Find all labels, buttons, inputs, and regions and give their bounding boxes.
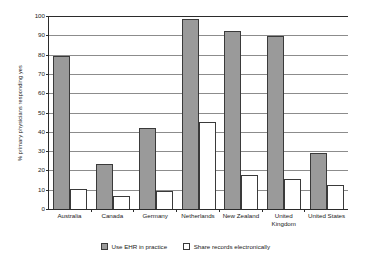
x-axis-label: Netherlands: [177, 212, 220, 236]
x-axis-label: United States: [305, 212, 348, 236]
y-axis-title: % primary physicians responding yes: [14, 18, 26, 208]
bar-share: [284, 179, 301, 209]
legend-swatch-ehr: [101, 243, 108, 250]
x-axis-labels: AustraliaCanadaGermanyNetherlandsNew Zea…: [48, 212, 348, 236]
y-tick-label-50: 50: [38, 109, 45, 115]
bar-group: [177, 16, 220, 209]
legend-swatch-share: [183, 243, 190, 250]
legend-label: Use EHR in practice: [111, 243, 167, 250]
bar-share: [327, 185, 344, 209]
bar-share: [70, 189, 87, 209]
y-tick-label-80: 80: [38, 51, 45, 57]
y-tick-mark-0: [46, 209, 49, 210]
x-axis-label: New Zealand: [219, 212, 262, 236]
y-tick-label-40: 40: [38, 129, 45, 135]
bar-ehr: [224, 31, 241, 209]
x-axis-label: Canada: [91, 212, 134, 236]
bar-group: [220, 16, 263, 209]
bar-group: [49, 16, 92, 209]
bar-group: [134, 16, 177, 209]
y-tick-label-0: 0: [42, 206, 45, 212]
bar-group: [305, 16, 348, 209]
bar-ehr: [267, 36, 284, 209]
y-tick-label-60: 60: [38, 90, 45, 96]
bar-ehr: [182, 19, 199, 209]
legend-label: Share records electronically: [194, 243, 270, 250]
bar-ehr: [310, 153, 327, 209]
bar-share: [113, 196, 130, 209]
legend-item: Use EHR in practice: [101, 243, 167, 250]
bar-share: [241, 175, 258, 209]
y-tick-label-10: 10: [38, 187, 45, 193]
bar-ehr: [53, 56, 70, 209]
y-tick-label-90: 90: [38, 32, 45, 38]
legend-item: Share records electronically: [183, 243, 270, 250]
y-tick-label-30: 30: [38, 148, 45, 154]
bar-group: [263, 16, 306, 209]
x-axis-label: Australia: [48, 212, 91, 236]
bar-share: [199, 122, 216, 209]
x-axis-label: United Kingdom: [262, 212, 305, 236]
y-tick-label-70: 70: [38, 71, 45, 77]
bar-chart-figure: % primary physicians responding yes 0102…: [0, 0, 371, 266]
y-tick-label-100: 100: [35, 13, 45, 19]
chart-legend: Use EHR in practiceShare records electro…: [0, 243, 371, 250]
bar-group: [92, 16, 135, 209]
bar-groups: [49, 16, 348, 209]
y-tick-label-20: 20: [38, 167, 45, 173]
plot-area: 0102030405060708090100: [48, 16, 348, 210]
x-axis-label: Germany: [134, 212, 177, 236]
bar-share: [156, 191, 173, 209]
bar-ehr: [139, 128, 156, 209]
bar-ehr: [96, 164, 113, 209]
